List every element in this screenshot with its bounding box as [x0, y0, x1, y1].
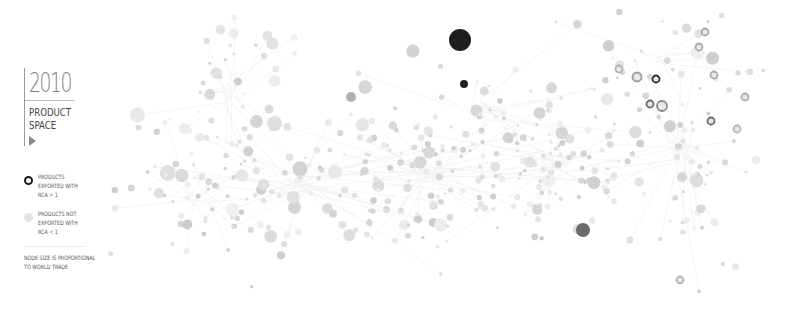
- network-nodes: [108, 9, 765, 293]
- divider: [25, 100, 75, 101]
- product-space-network[interactable]: [0, 0, 787, 322]
- legend-label-rca: PRODUCTS EXPORTED WITH RCA > 1: [38, 172, 78, 199]
- legend: PRODUCTS EXPORTED WITH RCA > 1 PRODUCTS …: [24, 172, 99, 271]
- title-line-1: PRODUCT: [29, 106, 80, 119]
- legend-item-rca: PRODUCTS EXPORTED WITH RCA > 1: [24, 172, 99, 199]
- node-size-note: NODE SIZE IS PROPORTIONAL TO WORLD TRADE: [24, 253, 96, 271]
- title-line-2: SPACE: [29, 119, 80, 132]
- play-triangle-icon[interactable]: [29, 136, 36, 146]
- year-block: 2010 PRODUCT SPACE: [24, 68, 94, 146]
- year-label: 2010: [29, 68, 76, 98]
- legend-label-non-rca: PRODUCTS NOT EXPORTED WITH RCA < 1: [38, 209, 78, 236]
- divider: [24, 246, 86, 247]
- filled-node-icon: [24, 213, 33, 222]
- ring-node-icon: [24, 176, 33, 185]
- sidebar: 2010 PRODUCT SPACE: [24, 68, 94, 146]
- legend-item-non-rca: PRODUCTS NOT EXPORTED WITH RCA < 1: [24, 209, 99, 236]
